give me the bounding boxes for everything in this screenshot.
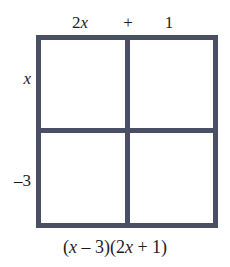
column-label-term-1-text: 2x (72, 13, 88, 32)
row-label-term-1-text: x (23, 69, 31, 88)
figure-caption: (x – 3)(2x + 1) (0, 238, 230, 256)
row-label-term-2: –3 (0, 172, 31, 189)
column-label-term-1: 2x (52, 14, 108, 31)
grid-cell-top-right (130, 40, 213, 128)
caption-var-1: x (69, 237, 77, 257)
grid-cell-bottom-right (130, 133, 213, 223)
caption-num-1: 3 (95, 237, 104, 257)
column-label-operator: + (108, 14, 148, 31)
caption-op-1: – (77, 237, 95, 257)
row-label-term-1: x (0, 70, 31, 87)
caption-var-2: x (125, 237, 133, 257)
caption-close-2: ) (161, 237, 167, 257)
caption-num-2: 2 (116, 237, 125, 257)
column-label-term-2: 1 (148, 14, 190, 31)
caption-num-3: 1 (152, 237, 161, 257)
grid-divider-horizontal (41, 128, 213, 133)
caption-op-2: + (133, 237, 152, 257)
grid-cell-top-left (41, 40, 125, 128)
algebra-area-model-figure: 2x + 1 x –3 (x – 3)(2x + 1) (0, 0, 230, 267)
area-model-grid (36, 35, 218, 228)
grid-cell-bottom-left (41, 133, 125, 223)
